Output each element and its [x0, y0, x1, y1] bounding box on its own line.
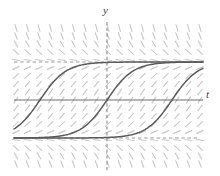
slope-tick: [93, 139, 100, 140]
slope-tick: [152, 41, 156, 47]
slope-tick: [116, 139, 123, 140]
slope-tick: [152, 89, 156, 95]
slope-tick: [140, 50, 145, 55]
slope-tick: [94, 105, 98, 111]
slope-tick: [13, 146, 18, 151]
slope-tick: [59, 67, 65, 70]
slope-tick: [94, 89, 98, 95]
slope-tick: [25, 89, 29, 95]
slope-tick: [117, 50, 122, 55]
slope-tick: [197, 131, 203, 134]
slope-tick: [106, 113, 110, 118]
slope-tick: [26, 41, 30, 47]
slope-tick: [37, 153, 41, 159]
slope-tick: [38, 161, 40, 168]
slope-tick: [117, 105, 121, 111]
slope-tick: [140, 122, 145, 127]
slope-tick: [26, 153, 30, 159]
slope-tick: [175, 105, 179, 111]
slope-tick: [197, 139, 204, 140]
slope-tick: [152, 81, 156, 86]
slope-tick: [197, 74, 202, 79]
slope-tick: [36, 74, 41, 79]
slope-tick: [198, 153, 202, 159]
slope-tick: [187, 33, 189, 40]
slope-tick: [175, 41, 179, 47]
slope-tick: [82, 74, 87, 79]
slope-tick: [197, 122, 202, 127]
slope-tick: [198, 105, 202, 111]
slope-tick: [25, 81, 29, 86]
slope-tick: [71, 105, 75, 111]
slope-tick: [129, 153, 133, 159]
slope-tick: [82, 146, 87, 151]
slope-tick: [174, 50, 179, 55]
slope-tick: [60, 153, 64, 159]
slope-tick: [24, 59, 31, 60]
slope-tick: [83, 113, 87, 118]
slope-tick: [174, 67, 180, 70]
slope-tick: [140, 146, 145, 151]
slope-tick: [47, 139, 54, 140]
slope-tick: [128, 50, 133, 55]
slope-tick: [15, 25, 17, 32]
slope-tick: [36, 131, 42, 134]
slope-tick: [141, 33, 143, 40]
slope-tick: [49, 153, 53, 159]
slope-tick: [129, 81, 133, 86]
slope-tick: [140, 89, 144, 95]
slope-tick: [25, 74, 30, 79]
slope-tick: [151, 74, 156, 79]
slope-tick: [14, 113, 18, 118]
slope-tick: [163, 146, 168, 151]
slope-tick: [61, 25, 63, 32]
slope-tick: [140, 81, 144, 86]
slope-tick: [174, 131, 180, 134]
slope-tick: [175, 153, 179, 159]
slope-tick: [14, 41, 18, 47]
slope-tick: [83, 81, 87, 86]
slope-tick: [163, 122, 168, 127]
slope-tick: [163, 74, 168, 79]
slope-tick: [59, 139, 66, 140]
slope-tick: [142, 25, 144, 32]
slope-tick: [165, 25, 167, 32]
slope-tick: [186, 146, 191, 151]
slope-tick: [130, 161, 132, 168]
slope-tick: [164, 33, 166, 40]
direction-field-figure: y t: [0, 0, 220, 176]
slope-tick: [83, 89, 87, 95]
slope-tick: [94, 146, 99, 151]
slope-tick: [197, 50, 202, 55]
slope-tick: [71, 50, 76, 55]
slope-tick: [72, 153, 76, 159]
slope-tick: [25, 105, 29, 111]
slope-tick: [174, 59, 181, 60]
slope-tick: [37, 105, 41, 111]
slope-tick: [15, 33, 17, 40]
slope-tick: [118, 161, 120, 168]
slope-tick: [118, 33, 120, 40]
slope-tick: [140, 105, 144, 111]
slope-tick: [105, 122, 110, 127]
slope-tick: [185, 131, 191, 134]
slope-tick: [151, 67, 157, 70]
slope-tick: [83, 105, 87, 111]
slope-tick: [72, 33, 74, 40]
slope-tick: [14, 81, 18, 86]
slope-tick: [105, 67, 111, 70]
slope-tick: [163, 89, 167, 95]
slope-tick: [139, 59, 146, 60]
slope-tick: [175, 113, 179, 118]
slope-tick: [187, 153, 191, 159]
slope-tick: [15, 161, 17, 168]
slope-tick: [83, 153, 87, 159]
slope-tick: [36, 122, 41, 127]
slope-tick: [176, 33, 178, 40]
slope-tick: [186, 81, 190, 86]
slope-tick: [59, 122, 64, 127]
slope-tick: [95, 33, 97, 40]
slope-tick: [59, 146, 64, 151]
slope-tick: [153, 25, 155, 32]
slope-tick: [185, 139, 192, 140]
